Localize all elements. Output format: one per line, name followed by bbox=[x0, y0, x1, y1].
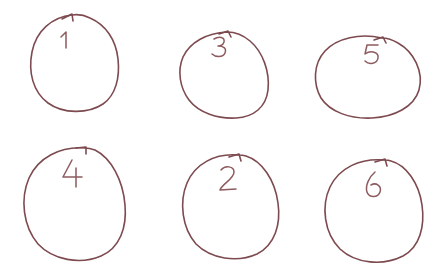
circle-outline-6[interactable] bbox=[325, 160, 423, 262]
drawing-canvas: 1 3 5 4 bbox=[0, 0, 444, 272]
circle-outline-1[interactable] bbox=[31, 15, 119, 112]
circle-outline-2[interactable] bbox=[183, 155, 279, 259]
shape-group-circle-3[interactable]: 3 bbox=[180, 31, 268, 118]
shape-group-circle-6[interactable]: 6 bbox=[325, 159, 423, 262]
digit-label-4 bbox=[63, 160, 82, 187]
shape-group-circle-2[interactable]: 2 bbox=[183, 154, 279, 259]
circle-outline-4[interactable] bbox=[24, 148, 125, 261]
digit-label-1 bbox=[61, 32, 66, 48]
shape-group-circle-4[interactable]: 4 bbox=[24, 147, 125, 260]
circle-outline-3[interactable] bbox=[180, 32, 268, 118]
sketch-svg: 1 3 5 4 bbox=[0, 0, 444, 272]
circle-outline-5[interactable] bbox=[315, 36, 420, 118]
shape-group-circle-1[interactable]: 1 bbox=[31, 14, 119, 111]
digit-label-2 bbox=[220, 167, 236, 190]
digit-label-6 bbox=[366, 172, 380, 197]
digit-label-5 bbox=[365, 45, 378, 63]
arrowhead-icon-5 bbox=[374, 37, 386, 43]
shape-group-circle-5[interactable]: 5 bbox=[315, 36, 420, 118]
digit-label-3 bbox=[212, 37, 226, 56]
